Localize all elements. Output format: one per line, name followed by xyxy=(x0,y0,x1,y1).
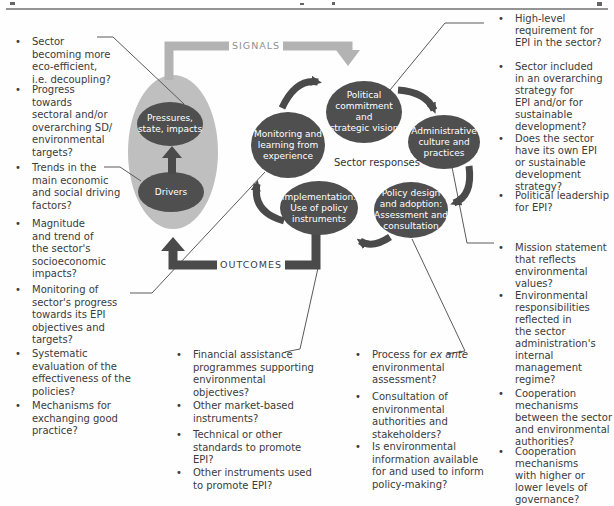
list-item: Cooperation mechanisms between the secto… xyxy=(498,388,612,448)
list-item: Magnitude and trend of the sector's soci… xyxy=(15,218,106,281)
arrow-implementation-to-monitoring xyxy=(256,184,284,221)
figure-canvas: Pressures, state, impacts Drivers Monito… xyxy=(0,0,614,506)
process-prefix: Process for xyxy=(372,349,430,360)
node-monitoring xyxy=(251,112,325,178)
list-item: Consultation of environmental authoritie… xyxy=(355,391,448,441)
list-item: Mission statement that reflects environm… xyxy=(498,242,607,290)
connector-implementation xyxy=(285,268,318,352)
list-item: Financial assistance programmes supporti… xyxy=(176,349,314,399)
outcomes-arrowhead xyxy=(161,237,185,251)
list-item: Sector becoming more eco-efficient, i.e.… xyxy=(15,36,111,86)
arrow-monitoring-to-political xyxy=(282,82,318,108)
list-item: Sector included in an overarching strate… xyxy=(498,61,603,133)
process-ex-ante: ex ante xyxy=(430,349,468,360)
sector-responses-label: Sector responses xyxy=(334,157,420,168)
node-pressures xyxy=(137,102,203,146)
node-political xyxy=(326,81,402,143)
list-item: Is environmental information available f… xyxy=(355,441,484,491)
arrow-political-to-administrative xyxy=(398,90,434,110)
list-item: Political leadership for EPI? xyxy=(498,190,609,214)
list-item: Systematic evaluation of the effectivene… xyxy=(15,348,131,398)
list-item: Does the sector have its own EPI or sust… xyxy=(498,133,597,193)
list-item: Other instruments used to promote EPI? xyxy=(176,467,312,492)
process-rest: environmental assessment? xyxy=(372,362,445,386)
signals-label: SIGNALS xyxy=(229,39,283,52)
connector-policy-design xyxy=(412,239,465,354)
list-item: Cooperation mechanisms with higher or lo… xyxy=(498,446,587,506)
list-item: Other market-based instruments? xyxy=(176,400,294,425)
list-item: Technical or other standards to promote … xyxy=(176,429,301,467)
outcomes-label: OUTCOMES xyxy=(217,258,285,271)
list-item: Environmental responsibilities reflected… xyxy=(498,290,596,386)
connector-political xyxy=(390,23,484,90)
node-policy-design xyxy=(374,182,448,238)
arrow-policy-to-implementation xyxy=(360,237,390,244)
list-item: Monitoring of sector's progress towards … xyxy=(15,284,117,347)
list-item: Mechanisms for exchanging good practice? xyxy=(15,400,118,438)
list-item: High-level requirement for EPI in the se… xyxy=(498,13,602,49)
list-item: Process for ex ante environmental assess… xyxy=(355,349,468,387)
node-implementation xyxy=(280,181,358,235)
node-drivers xyxy=(138,172,204,212)
list-item: Progress towards sectoral and/or overarc… xyxy=(15,84,112,159)
signals-arrowhead xyxy=(336,50,360,66)
list-item: Trends in the main economic and social d… xyxy=(15,162,120,212)
arrow-administrative-to-policy xyxy=(454,166,470,203)
